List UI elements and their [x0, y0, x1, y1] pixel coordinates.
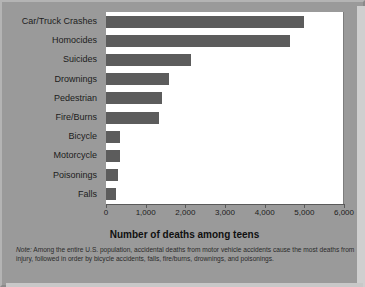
category-label: Falls — [78, 190, 97, 199]
category-label: Homocides — [52, 36, 97, 45]
bar-row — [106, 185, 344, 204]
bar — [106, 188, 116, 200]
bar-row — [106, 127, 344, 146]
bar-row — [106, 166, 344, 185]
x-axis-tick-label: 4,000 — [255, 208, 275, 217]
category-label: Bicycle — [68, 132, 97, 141]
category-label-row: Pedestrian — [2, 89, 102, 108]
category-label-row: Fire/Burns — [2, 108, 102, 127]
bar-row — [106, 50, 344, 69]
note-prefix: Note: — [16, 246, 32, 253]
category-label: Suicides — [63, 55, 97, 64]
chart-figure: Car/Truck Crashes Homocides Suicides Dro… — [0, 0, 365, 287]
bar — [106, 112, 159, 124]
category-label: Fire/Burns — [55, 113, 97, 122]
category-label: Poisonings — [53, 171, 97, 180]
x-axis-tick-label: 5,000 — [294, 208, 314, 217]
category-label-row: Bicycle — [2, 127, 102, 146]
bar-row — [106, 89, 344, 108]
x-axis-tick-label: 0 — [104, 208, 108, 217]
bar-row — [106, 31, 344, 50]
bar — [106, 35, 290, 47]
x-axis-title: Number of deaths among teens — [2, 229, 365, 240]
bar — [106, 169, 118, 181]
category-label-row: Poisonings — [2, 166, 102, 185]
category-label-row: Falls — [2, 185, 102, 204]
category-label: Pedestrian — [54, 94, 97, 103]
bar — [106, 16, 304, 28]
category-label-row: Homocides — [2, 31, 102, 50]
category-label: Motorcycle — [53, 151, 97, 160]
category-label: Car/Truck Crashes — [22, 17, 97, 26]
bar — [106, 150, 120, 162]
bar-row — [106, 12, 344, 31]
bar-series — [106, 12, 344, 204]
category-axis-labels: Car/Truck Crashes Homocides Suicides Dro… — [2, 12, 102, 204]
note-text: Among the entire U.S. population, accide… — [16, 246, 354, 262]
bar — [106, 54, 191, 66]
bar-row — [106, 108, 344, 127]
x-axis-tick-label: 2,000 — [175, 208, 195, 217]
category-label-row: Car/Truck Crashes — [2, 12, 102, 31]
x-axis-tick-label: 6,000 — [334, 208, 354, 217]
bar-row — [106, 70, 344, 89]
category-label-row: Suicides — [2, 50, 102, 69]
bar — [106, 73, 169, 85]
figure-shadow-right — [357, 6, 365, 287]
figure-shadow-bottom — [6, 283, 363, 287]
x-axis-tick-label: 1,000 — [136, 208, 156, 217]
category-label-row: Motorcycle — [2, 146, 102, 165]
x-axis-tick-label: 3,000 — [215, 208, 235, 217]
chart-note: Note: Among the entire U.S. population, … — [16, 246, 356, 264]
bar-row — [106, 146, 344, 165]
category-label: Drownings — [54, 75, 97, 84]
bar — [106, 92, 162, 104]
bar — [106, 131, 120, 143]
category-label-row: Drownings — [2, 70, 102, 89]
